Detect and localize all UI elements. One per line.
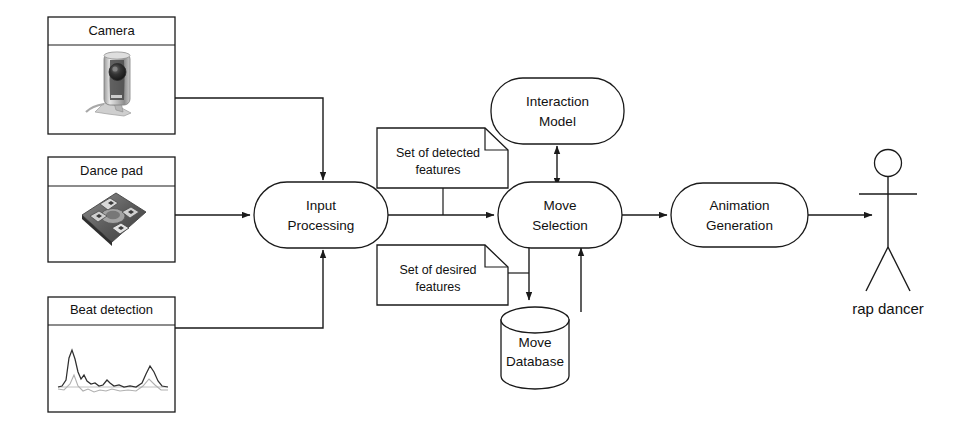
process-interaction-model[interactable]: Interaction Model — [491, 78, 624, 144]
process-animation-generation-line1: Animation — [709, 198, 769, 213]
actor-rap-dancer[interactable]: rap dancer — [852, 150, 924, 317]
connector-beat-detection-to-input-processing — [175, 250, 323, 328]
note-detected-features-line1: Set of detected — [396, 146, 480, 160]
process-input-processing[interactable]: Input Processing — [254, 182, 388, 248]
process-interaction-model-line1: Interaction — [526, 94, 589, 109]
input-panel-beat-detection: Beat detection — [48, 297, 175, 412]
input-panel-beat-detection-label: Beat detection — [70, 302, 153, 317]
note-detected-features-line2: features — [415, 163, 460, 177]
datastore-move-database-line2: Database — [506, 354, 564, 369]
process-animation-generation[interactable]: Animation Generation — [671, 183, 808, 247]
note-desired-features-line1: Set of desired — [399, 263, 476, 277]
process-move-selection-line2: Selection — [532, 218, 588, 233]
diagram-canvas: Camera Dance pa — [0, 0, 974, 435]
architecture-diagram: Camera Dance pa — [0, 0, 974, 435]
process-move-selection-line1: Move — [543, 198, 576, 213]
note-set-of-detected-features: Set of detected features — [377, 128, 508, 188]
input-panel-camera-label: Camera — [88, 23, 135, 38]
input-panel-dance-pad: Dance pad — [48, 157, 175, 262]
actor-rap-dancer-label: rap dancer — [852, 300, 924, 317]
note-desired-features-line2: features — [415, 280, 460, 294]
connector-camera-to-input-processing — [175, 98, 323, 180]
datastore-move-database[interactable]: Move Database — [501, 307, 569, 389]
process-interaction-model-line2: Model — [539, 114, 576, 129]
process-input-processing-line2: Processing — [288, 218, 355, 233]
input-panel-dance-pad-label: Dance pad — [80, 163, 143, 178]
note-set-of-desired-features: Set of desired features — [377, 245, 508, 305]
process-input-processing-line1: Input — [306, 198, 336, 213]
process-animation-generation-line2: Generation — [706, 218, 773, 233]
input-panel-camera: Camera — [48, 17, 175, 134]
process-move-selection[interactable]: Move Selection — [498, 182, 622, 248]
datastore-move-database-line1: Move — [518, 335, 551, 350]
